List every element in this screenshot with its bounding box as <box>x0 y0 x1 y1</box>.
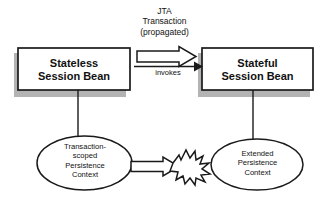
diagram-canvas: JTA Transaction (propagated) invokes Sta… <box>0 0 329 203</box>
extended-context-ellipse[interactable] <box>211 139 303 190</box>
conflict-starburst-icon <box>170 150 210 185</box>
diagram-vector-layer <box>0 0 329 203</box>
stateless-session-bean-box[interactable] <box>18 48 130 90</box>
stateful-session-bean-box[interactable] <box>202 48 313 90</box>
transaction-scoped-context-ellipse[interactable] <box>37 136 132 190</box>
jta-transaction-block-arrow <box>137 47 196 67</box>
